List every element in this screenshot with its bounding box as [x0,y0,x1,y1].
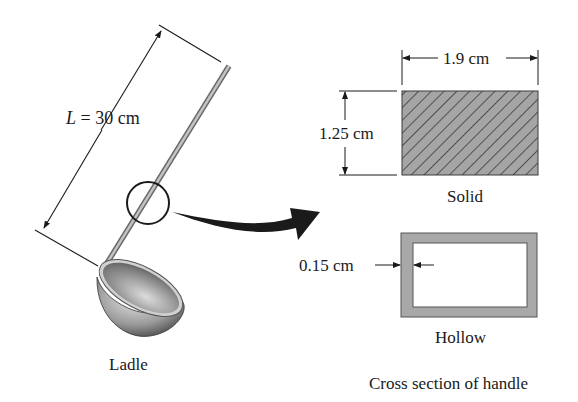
solid-height-label: 1.25 cm [319,125,374,142]
ladle-caption: Ladle [109,356,148,373]
hollow-caption: Hollow [435,329,486,346]
hollow-thickness-label: 0.15 cm [299,257,354,274]
diagram-svg [0,0,578,402]
solid-cross-section [339,50,538,175]
length-label: L = 30 cm [66,109,140,127]
curved-arrow [172,208,320,240]
hollow-cross-section [375,233,537,317]
ladle-handle-diagram: L = 30 cm Ladle 1.9 cm 1.25 cm Solid 0.1… [0,0,578,402]
figure-caption: Cross section of handle [369,375,528,392]
ladle-bowl [91,248,192,337]
solid-caption: Solid [447,188,483,205]
ladle-handle [104,66,229,268]
detail-circle [127,182,169,224]
solid-width-label: 1.9 cm [443,50,489,67]
